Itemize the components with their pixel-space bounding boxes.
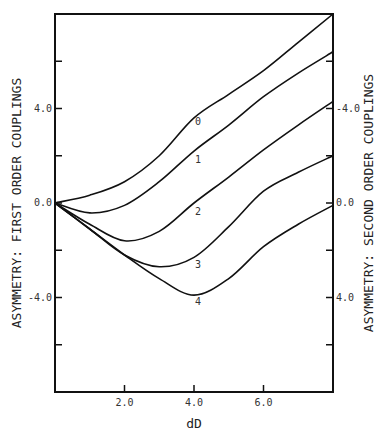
x-tick-label: 2.0 <box>115 397 133 408</box>
y-tick-label-left: -4.0 <box>28 292 52 303</box>
curve-label-1: 1 <box>195 154 201 165</box>
x-tick-label: 6.0 <box>254 397 272 408</box>
curve-labels: 01234 <box>195 116 201 307</box>
tick-labels: 2.04.06.0-4.04.00.00.04.0-4.0 <box>28 103 360 409</box>
curve-label-4: 4 <box>195 296 201 307</box>
x-tick-label: 4.0 <box>185 397 203 408</box>
curve-0 <box>55 14 333 203</box>
axis-ticks <box>55 61 333 392</box>
y-tick-label-left: 0.0 <box>34 197 52 208</box>
y-tick-label-right: -4.0 <box>336 103 360 114</box>
y-tick-label-left: 4.0 <box>34 103 52 114</box>
y-axis-title-right: ASYMMETRY: SECOND ORDER COUPLINGS <box>361 74 376 332</box>
y-tick-label-right: 0.0 <box>336 197 354 208</box>
curve-1 <box>55 52 333 213</box>
curve-4 <box>55 203 333 295</box>
x-axis-title: dD <box>186 416 202 431</box>
y-axis-title-left: ASYMMETRY: FIRST ORDER COUPLINGS <box>9 78 24 328</box>
y-tick-label-right: 4.0 <box>336 292 354 303</box>
curve-label-3: 3 <box>195 259 201 270</box>
curve-label-2: 2 <box>195 206 201 217</box>
curve-label-0: 0 <box>195 116 201 127</box>
asymmetry-chart: 2.04.06.0-4.04.00.00.04.0-4.0 01234 dD A… <box>0 0 383 440</box>
